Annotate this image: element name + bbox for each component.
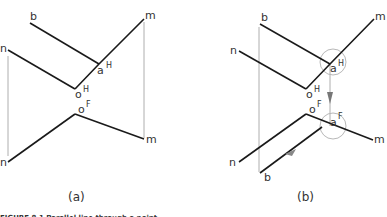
line-b-a-front (260, 127, 322, 173)
label-a-bottom-sup: F (338, 112, 343, 121)
label-m-bottom: m (146, 133, 157, 146)
label-o-bottom-sup: F (317, 100, 322, 109)
label-b-top: b (261, 11, 268, 24)
label-a-bottom: a (330, 116, 337, 129)
label-o-bottom: o (309, 103, 316, 116)
label-m-bottom: m (374, 133, 385, 146)
label-b: b (30, 10, 37, 23)
label-n-bottom: n (229, 156, 236, 169)
label-b-bottom: b (264, 171, 271, 184)
diagram-canvas: b n m a H o H o F n m (a) b n m a (0, 0, 387, 217)
panel-b: b n m a H o H o F a F n m b (b) (229, 10, 386, 204)
label-n-bottom: n (0, 156, 7, 169)
caption-b: (b) (297, 190, 314, 204)
label-n-top: n (0, 42, 7, 55)
label-m-top: m (145, 9, 156, 22)
label-a-top: a (330, 62, 337, 75)
line-o-m-front (75, 114, 144, 139)
line-b-a-top (260, 24, 330, 64)
projection-arrow-icon (327, 92, 333, 104)
line-o-m-top (306, 19, 374, 89)
line-o-m-top (75, 19, 144, 89)
line-n-o-top (239, 51, 306, 89)
label-o-top-sup: H (314, 85, 320, 94)
label-o-top: o (306, 88, 313, 101)
label-n-top: n (230, 44, 237, 57)
label-a-top: a (97, 64, 104, 77)
label-o-top-sup: H (83, 85, 89, 94)
label-o-top: o (75, 88, 82, 101)
label-a-top-sup: H (106, 61, 112, 70)
caption-a: (a) (68, 190, 85, 204)
line-n-o-front (8, 114, 75, 162)
label-m-top: m (375, 10, 386, 23)
line-n-o-top (8, 50, 75, 89)
label-a-top-sup: H (338, 59, 344, 68)
figure-caption: FIGURE 8.1 Parallel line through a point (0, 214, 158, 217)
panel-a: b n m a H o H o F n m (a) (0, 9, 157, 204)
label-o-bottom-sup: F (86, 100, 91, 109)
line-b-a-top (30, 23, 99, 64)
line-n-o-front (239, 114, 306, 162)
label-o-bottom: o (78, 103, 85, 116)
